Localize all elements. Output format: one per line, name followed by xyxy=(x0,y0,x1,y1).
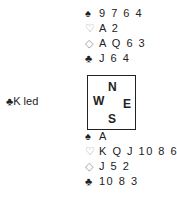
south-hand: ♠ A ♡ K Q J 10 8 6 ◇ J 5 2 ♣ 10 8 3 xyxy=(85,129,177,189)
diamond-icon: ◇ xyxy=(85,159,99,174)
north-hearts-row: ♡ A 2 xyxy=(85,21,146,36)
north-diamonds-row: ◇ A Q 6 3 xyxy=(85,36,146,51)
compass-box: N W E S xyxy=(87,75,136,130)
north-hand: ♠ 9 7 6 4 ♡ A 2 ◇ A Q 6 3 ♣ J 6 4 xyxy=(85,6,146,66)
south-spades-row: ♠ A xyxy=(85,129,177,144)
lead-text: K led xyxy=(13,95,38,107)
heart-icon: ♡ xyxy=(85,21,99,36)
compass-north: N xyxy=(108,80,117,94)
south-clubs-row: ♣ 10 8 3 xyxy=(85,174,177,189)
compass-west: W xyxy=(93,94,104,108)
north-clubs-row: ♣ J 6 4 xyxy=(85,51,146,66)
club-icon: ♣ xyxy=(85,51,99,66)
south-diamonds: J 5 2 xyxy=(99,159,130,174)
heart-icon: ♡ xyxy=(85,144,99,159)
north-clubs: J 6 4 xyxy=(99,51,130,66)
north-spades-row: ♠ 9 7 6 4 xyxy=(85,6,146,21)
north-hearts: A 2 xyxy=(99,21,119,36)
south-hearts-row: ♡ K Q J 10 8 6 xyxy=(85,144,177,159)
spade-icon: ♠ xyxy=(85,129,99,144)
compass-south: S xyxy=(108,112,116,126)
diamond-icon: ◇ xyxy=(85,36,99,51)
club-icon: ♣ xyxy=(85,174,99,189)
north-diamonds: A Q 6 3 xyxy=(99,36,146,51)
south-diamonds-row: ◇ J 5 2 xyxy=(85,159,177,174)
north-spades: 9 7 6 4 xyxy=(99,6,143,21)
compass-east: E xyxy=(123,97,131,111)
south-clubs: 10 8 3 xyxy=(99,174,139,189)
spade-icon: ♠ xyxy=(85,6,99,21)
south-hearts: K Q J 10 8 6 xyxy=(99,144,177,159)
opening-lead: ♣K led xyxy=(6,95,38,107)
south-spades: A xyxy=(99,129,108,144)
